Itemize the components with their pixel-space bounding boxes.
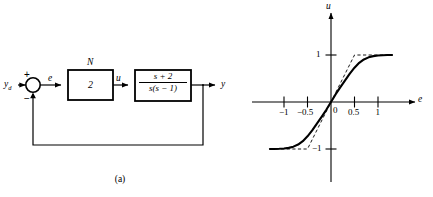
- y-tick-label-1: 1: [316, 49, 321, 59]
- reference-signal-label: yd: [4, 79, 11, 91]
- figure-container: yd + − e N 2 u s + 2 s(s − 1) y (a): [0, 0, 433, 197]
- y-tick-label-minus1: −1: [312, 143, 322, 153]
- panel-block-diagram: yd + − e N 2 u s + 2 s(s − 1) y (a): [0, 0, 240, 197]
- plant-numerator: s + 2: [139, 72, 187, 82]
- saturation-plot-svg: [240, 0, 433, 197]
- panel-a-caption: (a): [0, 174, 240, 184]
- x-tick-label-minus1: −1: [279, 107, 289, 117]
- nonlinearity-block-content: 2: [68, 79, 113, 90]
- plant-transfer-function: s + 2 s(s − 1): [139, 72, 187, 94]
- feedback-path: [33, 85, 203, 145]
- control-signal-label: u: [116, 73, 121, 83]
- panel-saturation-plot: u e −1 −0.5 0.5 1 0 1 −1 (b): [240, 0, 433, 197]
- output-signal-label: y: [221, 79, 225, 89]
- summing-plus-sign: +: [24, 70, 30, 80]
- error-signal-label: e: [48, 73, 52, 83]
- origin-label: 0: [333, 105, 338, 115]
- summing-minus-sign: −: [24, 94, 30, 104]
- x-tick-label-0_5: 0.5: [348, 107, 359, 117]
- x-tick-label-1: 1: [376, 107, 381, 117]
- x-axis-label: e: [418, 94, 422, 104]
- feedback-arrowhead: [30, 93, 36, 99]
- nonlinearity-block-label: N: [87, 57, 93, 67]
- x-tick-label-minus0_5: −0.5: [297, 107, 313, 117]
- plant-denominator: s(s − 1): [139, 84, 187, 94]
- y-axis-label: u: [326, 1, 331, 11]
- block-diagram-svg: [0, 0, 240, 197]
